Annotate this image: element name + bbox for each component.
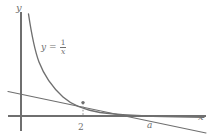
curve-equation-fraction: 1 x	[60, 39, 67, 56]
curve-equation-equals: =	[49, 43, 57, 52]
curve-equation-lhs: y	[41, 43, 46, 52]
curve-equation-label: y = 1 x	[41, 39, 66, 56]
y-axis-label: y	[16, 3, 22, 13]
tangency-point-marker	[81, 101, 84, 104]
x-axis-label: x	[198, 112, 204, 122]
plot-svg	[0, 0, 214, 138]
tangent-line	[8, 92, 206, 134]
figure-canvas: y x 2 a y = 1 x	[0, 0, 214, 138]
fraction-numerator: 1	[60, 39, 67, 47]
x-tick-label-2: 2	[78, 123, 84, 132]
x-tick-label-a: a	[147, 121, 152, 130]
fraction-denominator: x	[60, 48, 66, 56]
